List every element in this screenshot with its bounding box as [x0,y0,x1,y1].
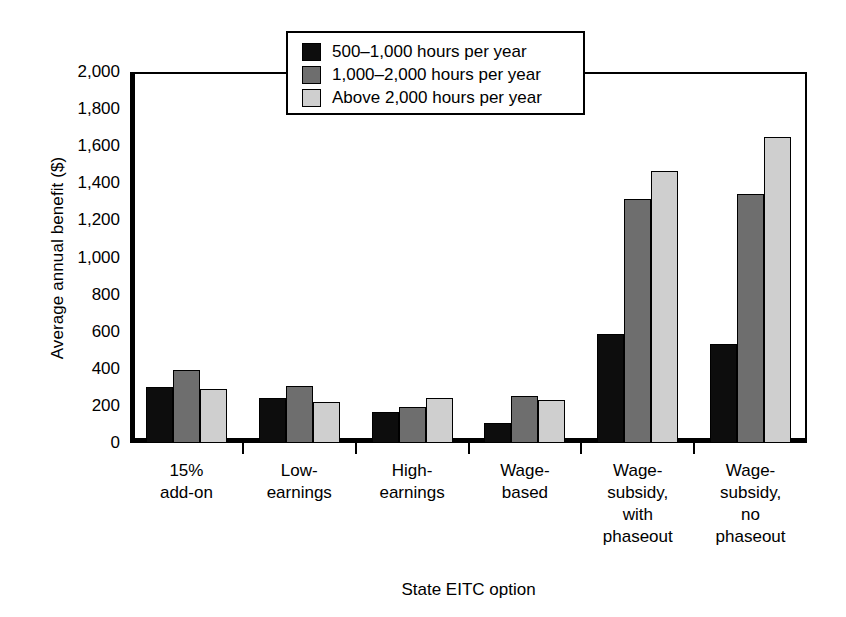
bar-series-2-group-2 [426,398,453,443]
y-tick-label: 1,200 [42,211,120,228]
x-tick-mark [355,443,357,454]
bar-series-1-group-2 [399,407,426,443]
legend-item: Above 2,000 hours per year [302,86,583,109]
x-axis-ticks [130,443,807,457]
legend-swatch-series-2 [302,89,321,107]
y-tick-label: 400 [42,360,120,377]
bar-series-0-group-4 [597,334,624,443]
y-tick-label: 200 [42,397,120,414]
y-tick-label: 1,600 [42,137,120,154]
y-tick-label: 2,000 [42,63,120,80]
bars-container [130,72,807,443]
legend-swatch-series-1 [302,66,321,84]
legend-swatch-series-0 [302,43,321,61]
y-tick-label: 0 [42,434,120,451]
x-category-label-5: Wage- subsidy, no phaseout [694,460,807,548]
bar-series-1-group-4 [624,199,651,443]
bar-series-0-group-5 [710,344,737,443]
x-tick-mark [580,443,582,454]
x-category-label-1: Low- earnings [243,460,356,504]
bar-chart-figure: Average annual benefit ($) 0200400600800… [0,0,846,617]
x-category-label-4: Wage- subsidy, with phaseout [581,460,694,548]
x-axis-title: State EITC option [130,580,807,600]
y-tick-label: 600 [42,323,120,340]
y-tick-label: 1,400 [42,174,120,191]
bar-series-1-group-3 [511,396,538,443]
bar-series-2-group-3 [538,400,565,443]
x-tick-mark [242,443,244,454]
x-category-label-0: 15% add-on [130,460,243,504]
x-axis-category-labels: 15% add-onLow- earningsHigh- earningsWag… [130,460,807,570]
bar-series-0-group-0 [146,387,173,443]
y-tick-label: 800 [42,286,120,303]
bar-series-2-group-5 [764,137,791,443]
x-tick-mark [693,443,695,454]
x-tick-mark [468,443,470,454]
legend-label-series-0: 500–1,000 hours per year [332,42,527,61]
legend: 500–1,000 hours per year 1,000–2,000 hou… [286,31,585,115]
bar-series-1-group-5 [737,194,764,443]
bar-series-0-group-2 [372,412,399,443]
legend-label-series-1: 1,000–2,000 hours per year [332,65,541,84]
bar-series-0-group-3 [484,423,511,443]
bar-series-2-group-1 [313,402,340,443]
legend-item: 500–1,000 hours per year [302,40,583,63]
bar-series-1-group-1 [286,386,313,444]
y-tick-label: 1,800 [42,100,120,117]
bar-series-1-group-0 [173,370,200,443]
y-tick-label: 1,000 [42,249,120,266]
legend-label-series-2: Above 2,000 hours per year [332,88,542,107]
bar-series-2-group-4 [651,171,678,443]
x-category-label-3: Wage- based [469,460,582,504]
bar-series-2-group-0 [200,389,227,443]
bar-series-0-group-1 [259,398,286,443]
x-category-label-2: High- earnings [356,460,469,504]
legend-item: 1,000–2,000 hours per year [302,63,583,86]
